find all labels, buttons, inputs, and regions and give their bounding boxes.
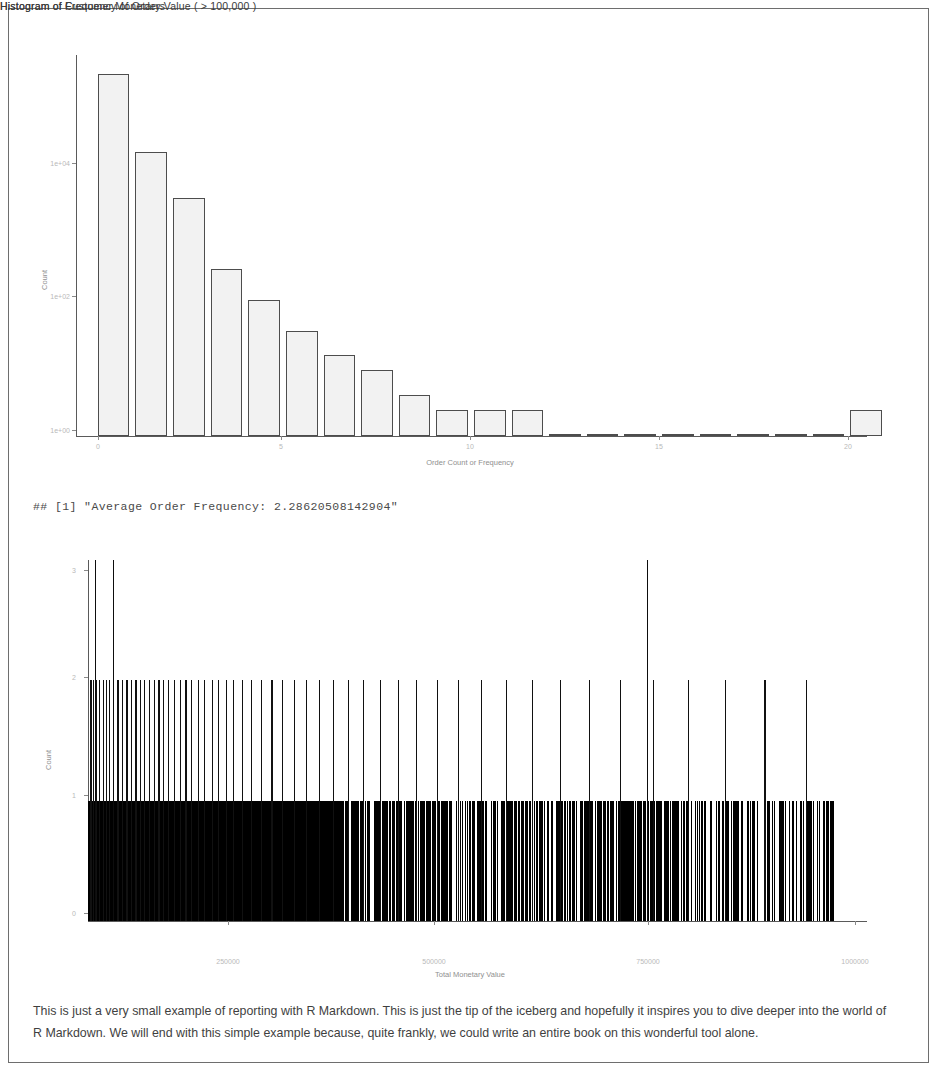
histogram-bar (380, 680, 381, 921)
closing-paragraph: This is just a very small example of rep… (33, 1000, 891, 1044)
histogram-bar (691, 801, 692, 921)
histogram-bar (242, 680, 243, 921)
monetary-x-tick-label: 750000 (636, 958, 659, 965)
histogram-bar (185, 680, 186, 921)
histogram-bar (620, 680, 621, 921)
histogram-bar (106, 680, 107, 921)
monetary-x-tick-label: 250000 (216, 958, 239, 965)
histogram-bar (149, 680, 150, 921)
histogram-bar (90, 680, 91, 921)
histogram-bar (212, 680, 213, 921)
histogram-bar (803, 801, 804, 921)
histogram-bar (135, 680, 136, 921)
histogram-bar (813, 801, 814, 921)
histogram-bar (806, 680, 807, 921)
histogram-bar (348, 680, 349, 921)
histogram-bar (282, 680, 283, 921)
histogram-bar (497, 801, 498, 921)
histogram-bar (833, 801, 834, 921)
histogram-bar (271, 680, 272, 921)
tick-mark (228, 921, 229, 925)
histogram-bar (653, 680, 654, 921)
monetary-x-tick-label: 500000 (422, 958, 445, 965)
histogram-bar (198, 680, 199, 921)
histogram-bar (95, 560, 96, 921)
monetary-x-tick-label: 1000000 (841, 958, 868, 965)
histogram-bar (661, 801, 662, 921)
monetary-y-tick-label: 3 (56, 567, 76, 574)
report-page: Histogram of Frequency of Orders Count 1… (0, 0, 939, 1073)
histogram-bar (474, 801, 475, 921)
monetary-x-axis-title: Total Monetary Value (435, 970, 505, 979)
histogram-bar (458, 680, 459, 921)
histogram-bar (519, 801, 520, 921)
histogram-bar (548, 801, 549, 921)
monetary-y-tick-label: 1 (56, 792, 76, 799)
histogram-bar (168, 680, 169, 921)
histogram-bar (532, 680, 533, 921)
histogram-bar (416, 680, 417, 921)
histogram-bar (560, 680, 561, 921)
monetary-x-axis-line (88, 921, 867, 922)
histogram-bar (705, 801, 706, 921)
histogram-bar (140, 680, 141, 921)
histogram-bar (369, 801, 370, 921)
tick-mark (434, 921, 435, 925)
histogram-bar (589, 680, 590, 921)
histogram-bar (774, 801, 775, 921)
histogram-bar (699, 801, 700, 921)
histogram-bar (117, 680, 118, 921)
histogram-bar (191, 680, 192, 921)
histogram-bar (306, 680, 307, 921)
histogram-bar (527, 801, 528, 921)
histogram-bar (437, 680, 438, 921)
histogram-bar (180, 680, 181, 921)
histogram-bar (681, 801, 682, 921)
histogram-bar (363, 680, 364, 921)
histogram-bar (418, 801, 419, 921)
histogram-bar (204, 680, 205, 921)
histogram-bar (131, 680, 132, 921)
histogram-bar (582, 801, 583, 921)
histogram-bar (126, 680, 127, 921)
histogram-bar (738, 801, 739, 921)
histogram-bar (109, 680, 110, 921)
tick-mark (855, 921, 856, 925)
histogram-bar (565, 801, 566, 921)
histogram-bar (764, 680, 765, 921)
histogram-bar (218, 680, 219, 921)
histogram-bar (486, 801, 487, 921)
monetary-y-tick-label: 0 (56, 910, 76, 917)
histogram-bar (757, 801, 758, 921)
histogram-bar (711, 801, 712, 921)
histogram-bar (251, 680, 252, 921)
histogram-bar (481, 680, 482, 921)
histogram-bar (544, 801, 545, 921)
histogram-bar (819, 801, 820, 921)
histogram-bar (796, 801, 797, 921)
tick-mark (648, 921, 649, 925)
histogram-bar (333, 680, 334, 921)
histogram-bar (261, 680, 262, 921)
histogram-bar (506, 680, 507, 921)
histogram-bar (174, 680, 175, 921)
histogram-bar (576, 801, 577, 921)
monetary-histogram-bars (88, 560, 866, 921)
histogram-bar (154, 680, 155, 921)
histogram-bar (483, 801, 484, 921)
histogram-bar (103, 680, 104, 921)
histogram-bar (158, 680, 159, 921)
histogram-bar (552, 801, 553, 921)
histogram-bar (233, 680, 234, 921)
histogram-bar (725, 680, 726, 921)
histogram-bar (113, 560, 114, 921)
histogram-bar (785, 801, 786, 921)
histogram-bar (742, 801, 743, 921)
histogram-bar (793, 801, 794, 921)
histogram-bar (678, 801, 679, 921)
histogram-bar (647, 560, 648, 921)
histogram-bar (613, 801, 614, 921)
histogram-bar (144, 680, 145, 921)
histogram-bar (688, 680, 689, 921)
histogram-bar (398, 680, 399, 921)
